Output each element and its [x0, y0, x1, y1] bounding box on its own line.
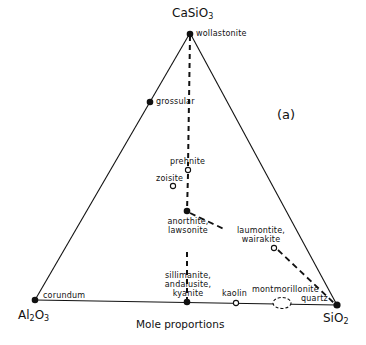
formula-subscript: 2 [343, 317, 348, 326]
formula-text: Al [18, 308, 30, 322]
label-corundum: corundum [43, 291, 85, 300]
label-kyanite: kyanite [160, 289, 216, 298]
vertex-label-al2o3: Al2O3 [18, 308, 49, 323]
vertex-label-casio3: CaSiO3 [172, 6, 213, 21]
formula-text: CaSiO [172, 6, 208, 20]
label-montmorillonite: montmorillonite [252, 285, 319, 294]
quartz-point [333, 301, 340, 308]
label-sillimanite: sillimanite, [160, 271, 216, 280]
triangle-left-edge [35, 33, 190, 300]
label-anorthite-lawsonite: anorthite, lawsonite [162, 217, 214, 235]
formula-subscript: 3 [44, 314, 49, 323]
label-wollastonite: wollastonite [196, 29, 247, 38]
laumontite-point [271, 245, 276, 250]
label-zoisite: zoisite [156, 174, 183, 183]
label-andalusite: andalusite, [160, 280, 216, 289]
label-kaolin: kaolin [222, 289, 247, 298]
formula-text: O [35, 308, 44, 322]
label-wairakite: wairakite [233, 235, 289, 244]
triangle-right-edge [190, 33, 337, 305]
grossular-point [147, 99, 154, 106]
kaolin-point [233, 300, 238, 305]
label-prehnite: prehnite [170, 157, 205, 166]
label-laumontite: laumontite, [233, 226, 289, 235]
label-anorthite: anorthite, [162, 217, 214, 226]
formula-subscript: 3 [208, 12, 213, 21]
corundum-point [32, 297, 39, 304]
vertex-label-sio2: SiO2 [323, 311, 349, 326]
anorthite-point [184, 208, 191, 215]
label-lawsonite: lawsonite [162, 226, 214, 235]
zoisite-point [170, 183, 175, 188]
panel-label: (a) [277, 107, 295, 122]
axis-label-mole-proportions: Mole proportions [136, 318, 224, 330]
tie-line-prehnite-anorthite [187, 174, 188, 211]
formula-text: SiO [323, 311, 343, 325]
sillimanite-point [184, 299, 191, 306]
montmorillonite-field [273, 298, 291, 309]
prehnite-point [185, 167, 190, 172]
label-laumontite-wairakite: laumontite, wairakite [233, 226, 289, 244]
label-grossular: grossular [156, 97, 195, 106]
label-quartz: quartz [301, 294, 328, 303]
label-aluminosilicates: sillimanite, andalusite, kyanite [160, 271, 216, 298]
wollastonite-point [187, 31, 194, 38]
